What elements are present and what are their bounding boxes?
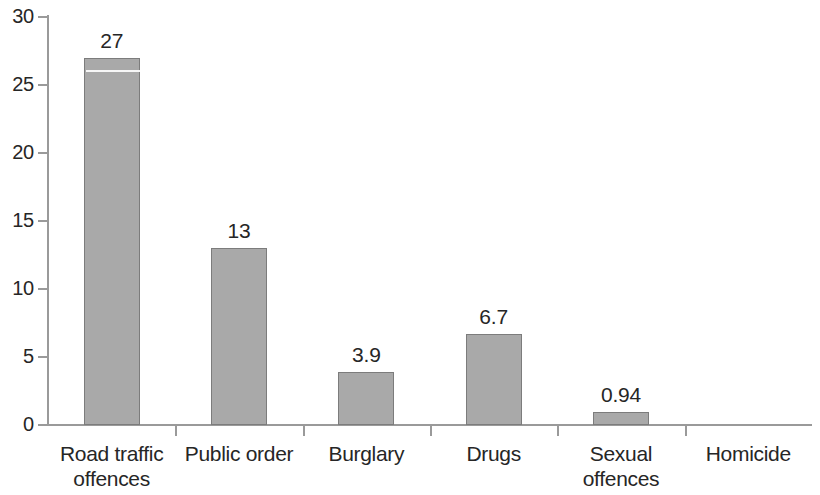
x-axis-line bbox=[40, 424, 812, 426]
x-axis-category-label: Sexualoffences bbox=[551, 441, 691, 491]
y-axis-tick-label-text: 10 bbox=[2, 278, 34, 298]
y-axis-tick-label: 30 bbox=[0, 6, 34, 26]
x-axis-category-label-line: Public order bbox=[169, 441, 309, 466]
y-axis-tick-label: 0 bbox=[0, 414, 34, 434]
y-axis-tick-mark bbox=[38, 288, 47, 290]
x-axis-category-label-line: offences bbox=[42, 466, 182, 491]
x-axis-category-label: Burglary bbox=[296, 441, 436, 466]
x-axis-tick-mark bbox=[430, 426, 432, 436]
x-axis-category-label-line: Sexual bbox=[551, 441, 691, 466]
bar bbox=[466, 334, 522, 425]
y-axis-tick-label: 5 bbox=[0, 346, 34, 366]
x-axis-tick-mark bbox=[175, 426, 177, 436]
bar-value-label: 13 bbox=[179, 220, 299, 241]
bar-value-label: 6.7 bbox=[434, 306, 554, 327]
y-axis-line bbox=[47, 15, 49, 426]
bar bbox=[211, 248, 267, 425]
y-axis-tick-label-text: 15 bbox=[2, 210, 34, 230]
bar bbox=[338, 372, 394, 425]
y-axis-tick-mark bbox=[38, 152, 47, 154]
x-axis-category-label-line: offences bbox=[551, 466, 691, 491]
y-axis-tick-mark bbox=[38, 16, 47, 18]
y-axis-tick-label: 10 bbox=[0, 278, 34, 298]
y-axis-tick-mark bbox=[38, 424, 47, 426]
x-axis-category-label: Road trafficoffences bbox=[42, 441, 182, 491]
y-axis-tick-label-text: 5 bbox=[2, 346, 34, 366]
x-axis-tick-mark bbox=[685, 426, 687, 436]
y-axis-tick-mark bbox=[38, 356, 47, 358]
y-axis-tick-label: 20 bbox=[0, 142, 34, 162]
y-axis-tick-label-text: 25 bbox=[2, 74, 34, 94]
y-axis-tick-label-text: 20 bbox=[2, 142, 34, 162]
x-axis-tick-mark bbox=[557, 426, 559, 436]
bar-value-label: 0.94 bbox=[561, 384, 681, 405]
bar-value-label: 3.9 bbox=[306, 344, 426, 365]
bar bbox=[84, 58, 140, 425]
y-axis-tick-label: 15 bbox=[0, 210, 34, 230]
x-axis-category-label-line: Drugs bbox=[424, 441, 564, 466]
x-axis-category-label: Public order bbox=[169, 441, 309, 466]
x-axis-category-label-line: Homicide bbox=[678, 441, 818, 466]
y-axis-tick-label-text: 0 bbox=[2, 414, 34, 434]
bar-value-label: 27 bbox=[52, 30, 172, 51]
x-axis-category-label: Drugs bbox=[424, 441, 564, 466]
bar-chart: 051015202530 27133.96.70.94 Road traffic… bbox=[0, 0, 820, 495]
x-axis-tick-mark bbox=[303, 426, 305, 436]
x-axis-category-label-line: Road traffic bbox=[42, 441, 182, 466]
x-axis-category-label-line: Burglary bbox=[296, 441, 436, 466]
y-axis-tick-label: 25 bbox=[0, 74, 34, 94]
x-axis-category-label: Homicide bbox=[678, 441, 818, 466]
scan-artifact-line bbox=[86, 70, 140, 72]
bar bbox=[593, 412, 649, 425]
y-axis-tick-mark bbox=[38, 84, 47, 86]
y-axis-tick-mark bbox=[38, 220, 47, 222]
y-axis-tick-label-text: 30 bbox=[2, 6, 34, 26]
